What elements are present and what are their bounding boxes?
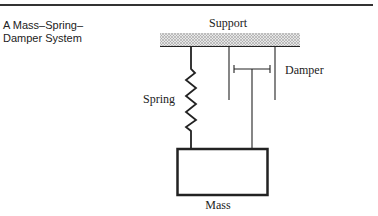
spring-label: Spring — [143, 92, 175, 106]
damper-label: Damper — [285, 63, 324, 77]
support-label: Support — [209, 16, 248, 30]
support-bar — [160, 33, 300, 46]
spring — [186, 47, 196, 149]
mass-block — [178, 149, 268, 195]
damper — [229, 47, 275, 149]
mass-label: Mass — [205, 198, 231, 212]
mass-spring-damper-diagram: Support Spring Damper Mass — [0, 0, 378, 216]
